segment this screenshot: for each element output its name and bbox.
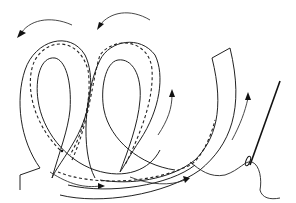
arrowhead-icon (245, 92, 251, 100)
illustration-canvas: Coiled fabric strip with running stitch … (0, 0, 296, 203)
coil-strip (20, 41, 236, 199)
direction-arrows (17, 13, 251, 189)
running-stitch (30, 43, 215, 181)
stitch-end-dot (61, 150, 63, 152)
arrowhead-icon (169, 89, 175, 97)
arrow-top-left (20, 20, 72, 35)
coil-stitch-illustration (0, 0, 296, 203)
arrowhead-icon (98, 183, 105, 189)
needle-and-thread (190, 81, 280, 199)
arrowhead-icon (97, 22, 104, 30)
arrowhead-icon (17, 30, 26, 38)
needle-icon (250, 81, 280, 165)
